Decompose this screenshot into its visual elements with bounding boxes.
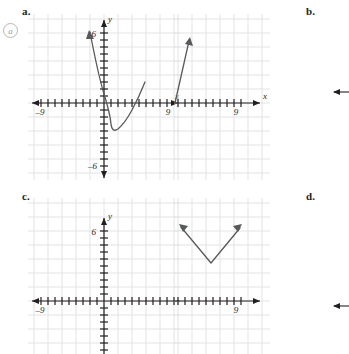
x-axis <box>32 99 178 107</box>
x-axis-label: x <box>262 91 267 101</box>
graph-a-svg: –9 9 6 –6 y x <box>28 14 180 180</box>
x-tick-label-neg9: –9 <box>35 107 46 117</box>
graph-right-edge-fragment-bottom <box>330 296 349 316</box>
x-axis <box>32 297 180 305</box>
grid-lines <box>174 14 270 180</box>
graph-b-svg: 9 x <box>174 14 270 180</box>
x-tick-label-9: 9 <box>166 107 171 117</box>
panel-label-b: b. <box>306 5 315 17</box>
y-tick-label-6: 6 <box>92 227 97 237</box>
x-axis <box>174 297 260 305</box>
graph-d: 9 <box>174 198 270 354</box>
parabola-curve <box>86 30 145 130</box>
graph-b: 9 x <box>174 14 270 180</box>
circled-a-annotation: a <box>3 23 18 38</box>
y-axis <box>100 218 108 354</box>
x-axis <box>174 99 260 107</box>
graph-right-edge-fragment-svg <box>330 82 349 102</box>
graph-a: –9 9 6 –6 y x <box>28 14 180 180</box>
graph-d-svg: 9 <box>174 198 270 354</box>
axis-arrowhead <box>333 303 349 309</box>
graph-c-svg: –9 6 y <box>28 198 180 354</box>
v-shape-curve <box>179 224 242 263</box>
graph-c: –9 6 y <box>28 198 180 354</box>
x-tick-label-9: 9 <box>234 107 239 117</box>
y-tick-label-6: 6 <box>92 29 97 39</box>
graph-right-edge-fragment <box>330 82 349 102</box>
graph-right-edge-fragment-bottom-svg <box>330 296 349 316</box>
axis-arrowhead <box>333 89 349 95</box>
x-tick-label-9: 9 <box>234 305 239 315</box>
y-axis-label: y <box>107 211 112 221</box>
y-axis-label: y <box>107 14 112 24</box>
y-tick-label-neg6: –6 <box>87 161 98 171</box>
grid-lines <box>174 198 270 354</box>
y-axis <box>100 20 108 178</box>
panel-label-d: d. <box>306 190 315 202</box>
x-tick-label-neg9: –9 <box>35 305 46 315</box>
